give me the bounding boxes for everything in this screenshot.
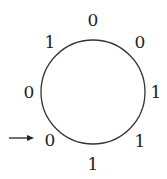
- digit-left: 0: [24, 84, 35, 101]
- start-arrow-icon: [9, 135, 34, 141]
- digit-bottom: 1: [88, 156, 99, 173]
- necklace-diagram: 0 0 1 1 1 0 0 1: [0, 0, 167, 179]
- digit-right: 1: [151, 84, 162, 101]
- digit-top-right: 0: [135, 34, 146, 51]
- digit-top: 0: [88, 12, 99, 29]
- necklace-circle: [41, 40, 145, 144]
- digit-bottom-left-start: 0: [45, 132, 56, 149]
- digit-top-left: 1: [45, 34, 56, 51]
- digit-bottom-right: 1: [135, 133, 146, 150]
